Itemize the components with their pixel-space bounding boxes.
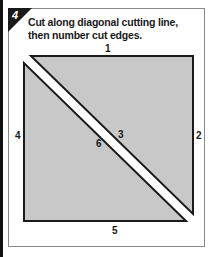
edge-label-cut-upper: 3 [118,129,124,140]
edge-label-left: 4 [15,130,21,141]
square-cut-diagram [0,0,213,257]
edge-label-top: 1 [105,43,111,54]
edge-label-cut-lower: 6 [96,138,102,149]
edge-label-right: 2 [196,130,202,141]
edge-label-bottom: 5 [112,225,118,236]
